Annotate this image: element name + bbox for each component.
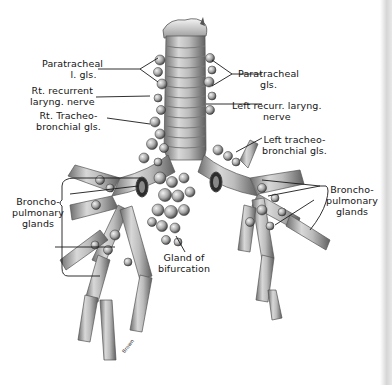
anatomy-figure: Paratracheal l. gls. Rt. recurrent laryn… [0, 0, 392, 385]
label-line: nerve [232, 111, 322, 122]
label-line: Rt. recurrent [30, 85, 95, 96]
left-bronchial-tree [238, 140, 330, 320]
label-line: gls. [238, 79, 299, 90]
label-bronchopulmonary-right: Broncho- pulmonary glands [326, 184, 378, 217]
label-rt-recurrent-nerve: Rt. recurrent laryng. nerve [30, 85, 95, 107]
label-line: Broncho- [12, 196, 64, 207]
label-line: Left tracheo- [262, 134, 327, 145]
label-left-recurrent-nerve: Left recurr. laryng. nerve [232, 100, 322, 122]
label-line: pulmonary [12, 207, 64, 218]
label-line: Rt. Tracheo- [36, 110, 101, 121]
label-gland-of-bifurcation: Gland of bifurcation [158, 252, 210, 274]
label-line: pulmonary [326, 195, 378, 206]
label-line: glands [326, 206, 378, 217]
label-paratracheal-left: Paratracheal l. gls. [42, 58, 103, 80]
label-line: l. gls. [42, 69, 103, 80]
label-line: Broncho- [326, 184, 378, 195]
label-line: Left recurr. laryng. [232, 100, 322, 111]
label-line: bronchial gls. [36, 121, 101, 132]
label-rt-tracheobronchial: Rt. Tracheo- bronchial gls. [36, 110, 101, 132]
label-line: laryng. nerve [30, 96, 95, 107]
label-line: bronchial gls. [262, 145, 327, 156]
larynx [163, 17, 207, 38]
label-left-tracheobronchial: Left tracheo- bronchial gls. [262, 134, 327, 156]
label-line: Paratracheal [238, 68, 299, 79]
label-line: glands [12, 218, 64, 229]
trachea [164, 36, 206, 160]
label-paratracheal-right: Paratracheal gls. [238, 68, 299, 90]
page-edge-shadow [380, 0, 392, 385]
label-bronchopulmonary-left: Broncho- pulmonary glands [12, 196, 64, 229]
label-line: Gland of [158, 252, 210, 263]
label-line: Paratracheal [42, 58, 103, 69]
label-line: bifurcation [158, 263, 210, 274]
